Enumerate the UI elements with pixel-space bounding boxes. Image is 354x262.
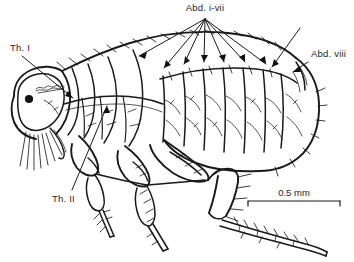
figure-canvas: 0.5 mm Abd. i-vii Abd. viii Th. I Th. II (0, 0, 354, 262)
label-th-i: Th. I (10, 42, 30, 53)
scale-bar-label: 0.5 mm (278, 187, 310, 198)
label-abd-i-vii: Abd. i-vii (186, 2, 224, 13)
label-abd-viii: Abd. viii (311, 48, 346, 59)
eye-spot (25, 95, 33, 103)
flea-illustration-figure: 0.5 mm Abd. i-vii Abd. viii Th. I Th. II (0, 0, 354, 262)
label-th-ii: Th. II (52, 193, 75, 204)
